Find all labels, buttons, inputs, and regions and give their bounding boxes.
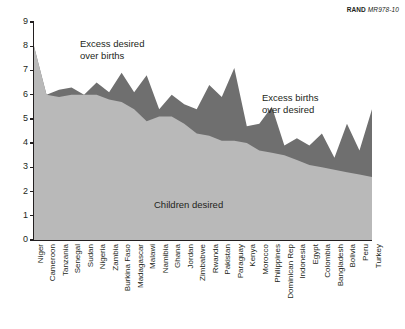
y-axis-tick-mark-8 <box>30 46 34 47</box>
annotation-excess-desired-line1: Excess desired <box>80 38 144 50</box>
annotation-excess-births-line1: Excess births <box>262 92 319 104</box>
x-axis-label-zimbabwe: Zimbabwe <box>199 244 207 281</box>
y-axis-tick-mark-0 <box>30 239 34 240</box>
y-axis-tick-label-8: 8 <box>12 41 28 50</box>
x-axis-label-senegal: Senegal <box>74 244 82 273</box>
y-axis-tick-mark-4 <box>30 142 34 143</box>
x-axis-label-indonesia: Indonesia <box>299 244 307 279</box>
figure-root: RANDMR978-10 Excess desired over births … <box>0 0 405 329</box>
x-axis-label-burkina-faso: Burkina Faso <box>124 244 132 291</box>
x-axis-label-tanzania: Tanzania <box>62 244 70 276</box>
x-axis-label-malawi: Malawi <box>149 244 157 269</box>
x-axis-label-rwanda: Rwanda <box>212 244 220 273</box>
y-axis-tick-mark-5 <box>30 118 34 119</box>
x-axis-label-pakistan: Pakistan <box>224 244 232 275</box>
y-axis-tick-label-7: 7 <box>12 65 28 74</box>
x-axis-label-niger: Niger <box>37 244 45 263</box>
x-axis-label-cameroon: Cameroon <box>49 244 57 281</box>
x-axis-label-paraguay: Paraguay <box>237 244 245 278</box>
y-axis-tick-label-1: 1 <box>12 211 28 220</box>
x-axis-label-sudan: Sudan <box>87 244 95 267</box>
y-axis-tick-mark-2 <box>30 191 34 192</box>
plot-area: Excess desired over births Excess births… <box>33 22 372 241</box>
annotation-excess-births-line2: over desired <box>262 104 319 116</box>
y-axis-tick-label-9: 9 <box>12 17 28 26</box>
x-axis-label-turkey: Turkey <box>375 244 383 268</box>
x-axis-label-nigeria: Nigeria <box>99 244 107 269</box>
y-axis-tick-label-2: 2 <box>12 187 28 196</box>
annotation-excess-desired-line2: over births <box>80 50 144 62</box>
document-number-label: MR978-10 <box>366 6 399 13</box>
annotation-children-desired: Children desired <box>154 199 223 211</box>
x-axis-label-philippines: Philippines <box>274 244 282 283</box>
source-credit: RANDMR978-10 <box>347 6 399 13</box>
y-axis-tick-label-5: 5 <box>12 114 28 123</box>
publisher-label: RAND <box>347 6 366 13</box>
y-axis-tick-mark-9 <box>30 21 34 22</box>
y-axis-tick-label-4: 4 <box>12 138 28 147</box>
x-axis-labels: NigerCameroonTanzaniaSenegalSudanNigeria… <box>33 244 371 329</box>
y-axis-tick-label-0: 0 <box>12 235 28 244</box>
x-axis-label-colombia: Colombia <box>324 244 332 278</box>
annotation-excess-births: Excess births over desired <box>262 92 319 115</box>
y-axis-tick-mark-7 <box>30 70 34 71</box>
x-axis-label-egypt: Egypt <box>312 244 320 264</box>
x-axis-label-peru: Peru <box>362 244 370 261</box>
annotation-excess-desired: Excess desired over births <box>80 38 144 61</box>
x-axis-label-dominican-rep: Dominican Rep <box>287 244 295 299</box>
x-axis-label-morocco: Morocco <box>262 244 270 275</box>
x-axis-label-jordan: Jordan <box>187 244 195 268</box>
x-axis-label-ghana: Ghana <box>174 244 182 268</box>
x-axis-label-kenya: Kenya <box>249 244 257 267</box>
y-axis-tick-mark-1 <box>30 215 34 216</box>
x-axis-label-madagascar: Madagascar <box>137 244 145 288</box>
x-axis-label-namibia: Namibia <box>162 244 170 273</box>
y-axis-tick-label-3: 3 <box>12 162 28 171</box>
y-axis-tick-mark-3 <box>30 167 34 168</box>
x-axis-label-bolivia: Bolivia <box>349 244 357 268</box>
x-axis-label-zambia: Zambia <box>112 244 120 271</box>
y-axis-tick-label-6: 6 <box>12 90 28 99</box>
x-axis-label-bangladesh: Bangladesh <box>337 244 345 286</box>
y-axis-tick-mark-6 <box>30 94 34 95</box>
